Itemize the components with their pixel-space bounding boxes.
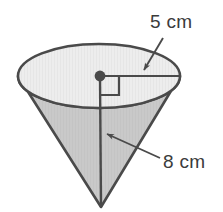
height-dimension-label: 8 cm xyxy=(163,151,205,172)
cone-center-point xyxy=(95,71,106,82)
cone-figure-container: 5 cm 8 cm xyxy=(0,0,223,212)
cone-diagram-svg: 5 cm 8 cm xyxy=(0,0,223,212)
radius-dimension-label: 5 cm xyxy=(150,11,192,32)
